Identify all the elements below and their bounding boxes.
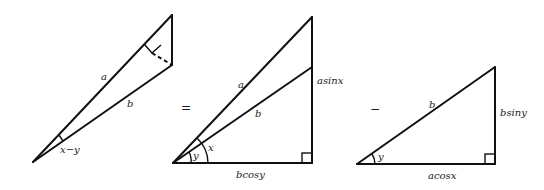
trig-identity-diagram: a b x−y = a b asinx bcosy x y − <box>0 0 544 190</box>
angle-arc-y-icon <box>372 154 375 164</box>
label-b: b <box>127 98 133 109</box>
label-angle-y: y <box>192 150 199 161</box>
right-angle-mark-icon <box>302 153 312 163</box>
label-a: a <box>238 79 244 90</box>
label-a: a <box>101 71 107 82</box>
side-a-line <box>33 15 172 162</box>
triangle-1: a b x−y <box>33 15 172 162</box>
side-a-line <box>173 17 312 163</box>
dashed-perpendicular-line <box>152 53 172 65</box>
label-b: b <box>255 108 261 119</box>
angle-mark-icon <box>59 135 63 141</box>
label-angle-y: y <box>377 151 384 162</box>
diagram-svg: a b x−y = a b asinx bcosy x y − <box>0 0 544 190</box>
minus-sign: − <box>370 102 380 116</box>
label-angle-x: x <box>208 142 214 153</box>
label-bsiny: bsiny <box>500 107 527 118</box>
right-angle-mark-icon <box>144 44 161 53</box>
label-bcosy: bcosy <box>236 169 265 180</box>
label-acosx: acosx <box>428 170 457 181</box>
angle-arc-y-icon <box>189 152 191 163</box>
triangle-2: a b asinx bcosy x y <box>173 17 344 180</box>
label-asinx: asinx <box>317 75 344 86</box>
right-angle-mark-icon <box>485 154 495 164</box>
label-b: b <box>429 99 435 110</box>
equals-sign: = <box>181 101 191 115</box>
triangle-3: b bsiny acosx y <box>357 67 527 181</box>
label-angle-x-minus-y: x−y <box>60 144 80 155</box>
